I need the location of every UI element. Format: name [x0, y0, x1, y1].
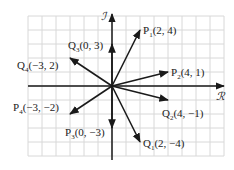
- imaginary-axis-label: ℐ: [101, 10, 106, 23]
- label-q1: Q1(2, −4): [143, 138, 184, 152]
- label-p3: P3(0, −3): [65, 127, 105, 141]
- label-q4: Q4(−3, 2): [17, 60, 58, 74]
- label-p4: P4(−3, −2): [13, 102, 59, 116]
- real-axis-label: ℛ: [216, 90, 225, 103]
- label-q2: Q2(4, −1): [162, 108, 203, 122]
- complex-plane-diagram: [0, 0, 234, 170]
- label-p1: P1(2, 4): [143, 25, 176, 39]
- label-q3: Q3(0, 3): [68, 40, 103, 54]
- label-p2: P2(4, 1): [171, 67, 204, 81]
